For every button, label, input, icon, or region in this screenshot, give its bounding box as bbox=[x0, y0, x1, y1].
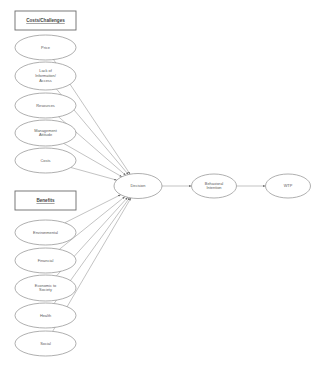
node-social[interactable]: Social bbox=[15, 331, 76, 356]
edge-costs-node-to-decision bbox=[71, 167, 117, 180]
node-label-environmental: Environmental bbox=[33, 230, 58, 235]
node-health[interactable]: Health bbox=[15, 303, 76, 328]
node-mgmt-attitude[interactable]: ManagementAttitude bbox=[15, 120, 76, 146]
node-lack-info[interactable]: Lack ofInformation/Access bbox=[15, 62, 76, 90]
node-costs-node[interactable]: Costs bbox=[15, 148, 76, 173]
node-label-lack-info: Access bbox=[39, 78, 52, 83]
node-label-health: Health bbox=[40, 313, 51, 318]
node-financial[interactable]: Financial bbox=[15, 248, 76, 273]
node-price[interactable]: Price bbox=[15, 35, 76, 60]
node-label-wtp: WTP bbox=[284, 183, 293, 188]
diagram-canvas: Costs/ChallengesBenefits PriceLack ofInf… bbox=[0, 0, 323, 369]
node-wtp[interactable]: WTP bbox=[266, 174, 311, 198]
node-economic[interactable]: Economic toSociety bbox=[15, 275, 76, 301]
group-label-benefits: Benefits bbox=[36, 198, 55, 203]
node-decision[interactable]: Decision bbox=[114, 174, 162, 199]
node-label-behavioral: Intention bbox=[207, 185, 222, 190]
edges-layer bbox=[53, 60, 266, 332]
node-resources[interactable]: Resources bbox=[15, 93, 76, 118]
node-label-price: Price bbox=[41, 45, 50, 50]
node-label-mgmt-attitude: Attitude bbox=[39, 132, 52, 137]
diagram-svg: Costs/ChallengesBenefits PriceLack ofInf… bbox=[0, 0, 323, 369]
node-label-decision: Decision bbox=[131, 183, 146, 188]
group-label-costs: Costs/Challenges bbox=[26, 18, 65, 23]
node-label-financial: Financial bbox=[38, 258, 54, 263]
node-label-economic: Society bbox=[39, 287, 52, 292]
node-behavioral[interactable]: BehavioralIntention bbox=[192, 174, 237, 198]
node-label-costs-node: Costs bbox=[41, 158, 51, 163]
node-environmental[interactable]: Environmental bbox=[15, 220, 76, 245]
node-label-social: Social bbox=[40, 341, 51, 346]
node-label-resources: Resources bbox=[36, 103, 55, 108]
